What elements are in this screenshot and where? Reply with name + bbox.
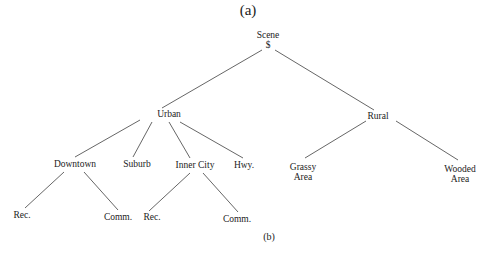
edge-urban-hwy bbox=[180, 122, 243, 158]
edge-downtown-rec bbox=[25, 172, 64, 208]
node-downtown-rec: Rec. bbox=[13, 210, 30, 220]
node-suburb: Suburb bbox=[123, 159, 150, 169]
node-urban: Urban bbox=[157, 109, 181, 119]
node-wooded-area-line2: Area bbox=[444, 174, 475, 184]
node-rural: Rural bbox=[367, 111, 388, 121]
edge-urban-innercity bbox=[169, 122, 190, 158]
node-inner-city-rec: Rec. bbox=[143, 212, 160, 222]
caption-a: (a) bbox=[240, 2, 257, 19]
node-downtown-comm: Comm. bbox=[104, 212, 132, 222]
edge-scene-urban bbox=[162, 50, 262, 108]
edge-downtown-comm bbox=[84, 172, 118, 210]
node-wooded-area-line1: Wooded bbox=[444, 164, 475, 174]
node-grassy-area-line2: Area bbox=[290, 172, 316, 182]
node-hwy: Hwy. bbox=[234, 160, 254, 170]
node-wooded-area: Wooded Area bbox=[444, 164, 475, 184]
node-grassy-area: Grassy Area bbox=[290, 162, 316, 182]
node-grassy-area-line1: Grassy bbox=[290, 162, 316, 172]
edge-innercity-comm bbox=[203, 173, 238, 212]
node-downtown: Downtown bbox=[54, 159, 96, 169]
edge-urban-downtown bbox=[75, 120, 140, 157]
caption-b: (b) bbox=[263, 231, 275, 242]
node-inner-city: Inner City bbox=[176, 160, 215, 170]
node-scene-label: Scene bbox=[257, 30, 280, 40]
node-inner-city-comm: Comm. bbox=[223, 214, 251, 224]
edge-rural-grassy bbox=[305, 121, 366, 158]
edge-innercity-rec bbox=[149, 173, 190, 211]
edge-rural-wooded bbox=[396, 121, 458, 160]
edge-urban-suburb bbox=[133, 122, 152, 157]
edge-scene-rural bbox=[275, 50, 374, 110]
node-scene: Scene $ bbox=[257, 30, 280, 50]
node-scene-symbol: $ bbox=[257, 40, 280, 50]
